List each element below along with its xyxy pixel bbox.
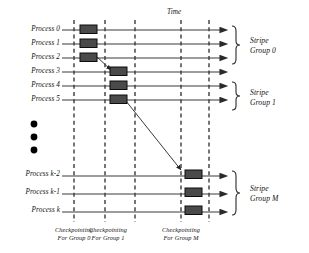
process-label-3: Process 3 bbox=[0, 67, 60, 75]
caption-group-1-line1: Checkpointing bbox=[76, 226, 140, 234]
caption-group-1-line2: For Group 1 bbox=[76, 234, 140, 242]
dependency-arrows bbox=[96, 56, 181, 170]
time-axis-label: Time bbox=[167, 8, 181, 16]
process-label-1: Process 1 bbox=[0, 39, 60, 47]
stripe-group-0-line2: Group 0 bbox=[250, 46, 276, 56]
stripe-group-braces bbox=[232, 26, 240, 215]
stripe-group-1-line1: Stripe bbox=[250, 88, 269, 98]
process-label-0: Process 0 bbox=[0, 25, 60, 33]
process-label-k: Process k bbox=[0, 206, 60, 214]
stripe-group-1-line2: Group 1 bbox=[250, 98, 276, 108]
caption-group-m-line2: For Group M bbox=[149, 234, 213, 242]
caption-group-m-line1: Checkpointing bbox=[149, 226, 213, 234]
arrow-p5-to-pk2 bbox=[126, 101, 181, 170]
process-label-4: Process 4 bbox=[0, 81, 60, 89]
stripe-group-m-line1: Stripe bbox=[250, 184, 269, 194]
ellipsis-dots bbox=[31, 121, 38, 154]
process-label-k-1: Process k-1 bbox=[0, 188, 60, 196]
checkpointing-stripe-group-diagram: Time Process 0 Process 1 Process 2 Proce… bbox=[0, 0, 309, 253]
stripe-group-m-line2: Group M bbox=[250, 194, 278, 204]
process-label-5: Process 5 bbox=[0, 95, 60, 103]
stripe-group-0-line1: Stripe bbox=[250, 36, 269, 46]
process-label-2: Process 2 bbox=[0, 53, 60, 61]
process-label-k-2: Process k-2 bbox=[0, 170, 60, 178]
